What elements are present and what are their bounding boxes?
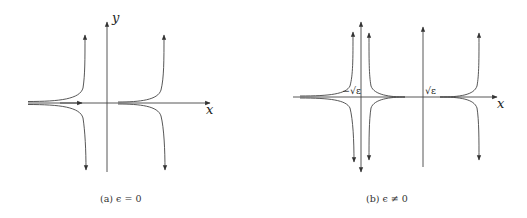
trajectory-right-lower <box>440 97 479 160</box>
trajectory-far-left-lower <box>300 98 354 162</box>
caption-a: (a) ϵ = 0 <box>100 193 141 204</box>
trajectory-right-lower <box>118 104 165 170</box>
caption-b: (b) ϵ ≠ 0 <box>366 193 408 204</box>
y-axis-label: y <box>111 10 120 25</box>
trajectory-mid-upper <box>369 33 405 97</box>
neg-sqrt-eps-label: −√ε <box>342 85 361 96</box>
trajectory-left-lower <box>28 105 86 171</box>
panel-a <box>28 22 210 172</box>
x-axis-label-b: x <box>497 96 505 111</box>
trajectory-mid-lower <box>369 97 405 160</box>
panel-b <box>293 22 497 172</box>
x-axis-label: x <box>206 102 214 117</box>
trajectory-left-upper <box>28 35 85 102</box>
sqrt-eps-label: √ε <box>425 85 436 96</box>
phase-portraits: y x −√ε √ε x <box>0 0 527 218</box>
trajectory-right-upper <box>118 35 164 102</box>
trajectory-right-upper <box>440 33 479 97</box>
